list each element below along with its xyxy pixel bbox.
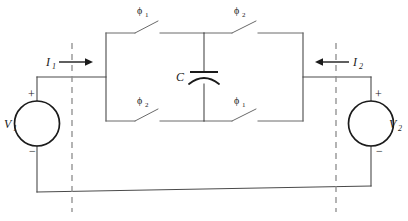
voltage-source-right bbox=[349, 101, 394, 146]
left-source-minus: − bbox=[29, 144, 36, 158]
right-source-circle bbox=[349, 101, 394, 146]
current-label-left-sub: 1 bbox=[52, 62, 56, 71]
switch-label-top-left: ϕ bbox=[137, 5, 142, 16]
switch-label-bottom-right-sub: 1 bbox=[242, 101, 246, 109]
capacitor-label: C bbox=[176, 70, 185, 84]
switch-label-bottom-left-sub: 2 bbox=[145, 101, 149, 109]
figure-canvas: ϕ 1 ϕ 2 ϕ 2 ϕ 1 C I 1 I 2 V 1 + − V 2 + … bbox=[0, 0, 408, 221]
left-source-circle bbox=[15, 101, 60, 146]
left-source-plus: + bbox=[28, 87, 35, 101]
left-arrow-head bbox=[85, 58, 93, 66]
right-source-label-sub: 2 bbox=[398, 124, 402, 133]
current-arrow-right bbox=[315, 58, 349, 66]
left-source-label: V bbox=[4, 117, 13, 131]
current-arrow-left bbox=[59, 58, 93, 66]
circuit-schematic: ϕ 1 ϕ 2 ϕ 2 ϕ 1 C I 1 I 2 V 1 + − V 2 + … bbox=[0, 0, 408, 221]
switch-blade-bottom-left[interactable] bbox=[135, 109, 158, 121]
switch-label-top-right: ϕ bbox=[234, 5, 239, 16]
switch-blade-bottom-right[interactable] bbox=[232, 109, 256, 121]
capacitor-bottom-plate bbox=[189, 78, 219, 84]
right-arrow-head bbox=[315, 58, 323, 66]
current-label-right-sub: 2 bbox=[359, 62, 363, 71]
switch-label-bottom-right: ϕ bbox=[234, 95, 239, 106]
voltage-source-left bbox=[15, 101, 60, 146]
right-source-plus: + bbox=[375, 87, 382, 101]
switch-label-bottom-left: ϕ bbox=[137, 95, 142, 106]
capacitor-symbol bbox=[189, 72, 219, 84]
switch-blade-top-right[interactable] bbox=[232, 21, 256, 33]
bottom-return-rail bbox=[37, 186, 371, 192]
right-source-minus: − bbox=[376, 144, 383, 158]
switch-blade-top-left[interactable] bbox=[135, 21, 158, 33]
current-label-left: I bbox=[45, 55, 51, 69]
switch-label-top-right-sub: 2 bbox=[242, 11, 246, 19]
left-source-label-sub: 1 bbox=[13, 124, 17, 133]
right-source-label: V bbox=[389, 117, 398, 131]
switch-label-top-left-sub: 1 bbox=[145, 11, 149, 19]
current-label-right: I bbox=[352, 55, 358, 69]
switch-network-wires bbox=[106, 33, 303, 121]
